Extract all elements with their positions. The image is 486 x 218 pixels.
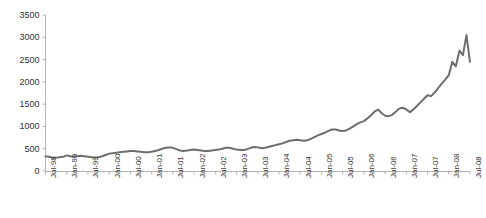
x-axis-tick-label: Jan-07 [410,154,419,178]
data-series-line [46,35,471,158]
x-axis-tick-label: Jan-99 [70,154,79,178]
line-chart: 0500100015002000250030003500 Jul-98Jan-9… [0,0,486,218]
x-axis-tick-label: Jul-99 [91,156,100,178]
y-axis-tick-label: 2000 [19,77,39,87]
x-axis-tick-label: Jan-04 [282,154,291,178]
chart-plot-area [0,0,486,218]
x-axis-tick-label: Jul-08 [474,156,483,178]
x-axis-tick-label: Jan-00 [113,154,122,178]
x-axis [46,171,471,175]
x-axis-tick-label: Jul-06 [389,156,398,178]
y-axis-tick-label: 500 [24,144,39,154]
y-axis [43,15,46,171]
x-axis-tick-label: Jan-03 [240,154,249,178]
x-axis-ticks [46,171,471,175]
x-axis-tick-label: Jul-07 [431,156,440,178]
x-axis-tick-label: Jan-02 [198,154,207,178]
y-axis-tick-label: 0 [34,166,39,176]
x-axis-tick-label: Jul-98 [49,156,58,178]
y-axis-tick-label: 1000 [19,121,39,131]
x-axis-tick-label: Jul-02 [219,156,228,178]
x-axis-tick-label: Jul-01 [176,156,185,178]
y-axis-tick-label: 1500 [19,99,39,109]
x-axis-tick-label: Jan-06 [367,154,376,178]
y-axis-tick-label: 3500 [19,10,39,20]
x-axis-tick-label: Jan-05 [325,154,334,178]
x-axis-tick-label: Jul-04 [304,156,313,178]
x-axis-tick-label: Jul-03 [261,156,270,178]
x-axis-tick-label: Jan-01 [155,154,164,178]
x-axis-tick-label: Jul-00 [134,156,143,178]
y-axis-tick-label: 3000 [19,32,39,42]
x-axis-tick-label: Jul-05 [346,156,355,178]
x-axis-tick-label: Jan-08 [452,154,461,178]
y-axis-tick-label: 2500 [19,55,39,65]
